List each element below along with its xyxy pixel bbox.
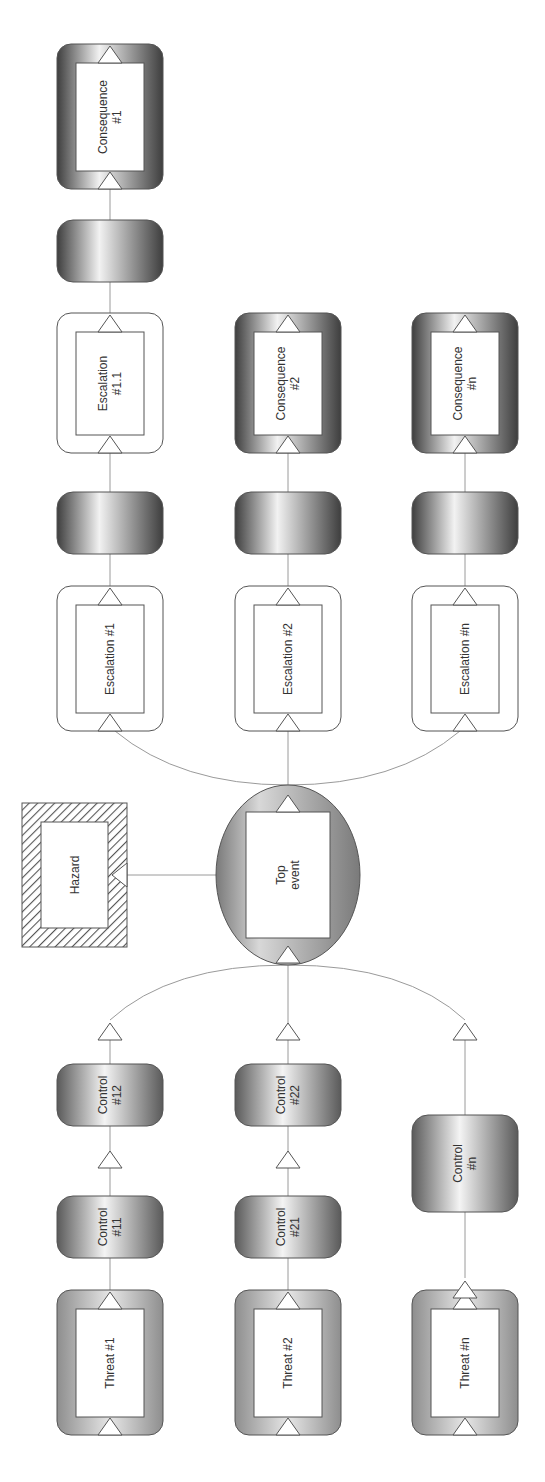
escalation-1[interactable]: Escalation #1 — [57, 586, 163, 731]
node-label: Hazard — [68, 856, 82, 895]
threat-2[interactable]: Threat #2 — [235, 1290, 341, 1435]
threat-1[interactable]: Threat #1 — [57, 1290, 163, 1435]
node-label: Threat #n — [458, 1337, 472, 1388]
recovery-barrier-barrier-2[interactable] — [57, 492, 163, 554]
control-n[interactable]: Control#n — [412, 1115, 518, 1212]
node-label: Threat #2 — [281, 1337, 295, 1389]
triangle-icon — [98, 1151, 122, 1168]
triangle-icon — [276, 1023, 300, 1040]
recovery-barrier-barrier-3[interactable] — [235, 492, 341, 554]
escalation-1-1[interactable]: Escalation#1.1 — [57, 313, 163, 453]
consequence-2[interactable]: Consequence#2 — [235, 313, 341, 453]
triangle-icon — [276, 1151, 300, 1168]
recovery-barrier-barrier-4[interactable] — [412, 492, 518, 554]
node-label: Escalation #1 — [103, 623, 117, 695]
control-22[interactable]: Control#22 — [235, 1064, 341, 1126]
triangle-icon — [453, 1023, 477, 1040]
control-11[interactable]: Control#11 — [57, 1196, 163, 1258]
escalation-n[interactable]: Escalation #n — [412, 586, 518, 731]
bowtie-diagram: Consequence#1Consequence#2Consequence#nE… — [0, 0, 545, 1482]
node-label: Escalation #n — [458, 623, 472, 695]
nodes: Consequence#1Consequence#2Consequence#nE… — [22, 44, 518, 1435]
escalation-2[interactable]: Escalation #2 — [235, 586, 341, 731]
control-21[interactable]: Control#21 — [235, 1196, 341, 1258]
barrier-triangle — [98, 1023, 122, 1040]
barrier-triangle — [98, 1151, 122, 1168]
triangle-icon — [98, 1023, 122, 1040]
node-label: Escalation #2 — [281, 623, 295, 695]
top-event[interactable]: Topevent — [216, 785, 360, 965]
control-12[interactable]: Control#12 — [57, 1064, 163, 1126]
barrier-triangle — [276, 1023, 300, 1040]
consequence-n[interactable]: Consequence#n — [412, 313, 518, 453]
recovery-barrier-barrier-1[interactable] — [57, 220, 163, 282]
node-label: Threat #1 — [103, 1337, 117, 1389]
hazard[interactable]: Hazard — [22, 803, 127, 947]
barrier-triangle — [276, 1151, 300, 1168]
threat-n[interactable]: Threat #n — [412, 1290, 518, 1435]
barrier-triangle — [453, 1023, 477, 1040]
consequence-1[interactable]: Consequence#1 — [57, 44, 163, 189]
